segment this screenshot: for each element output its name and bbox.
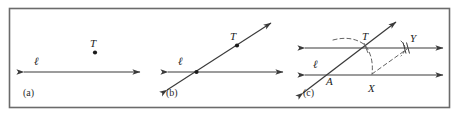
- panel-b-line-label: ℓ: [178, 56, 183, 67]
- figure-border: [10, 9, 450, 108]
- geometry-figure: ℓ T (a) ℓ T (b) ℓ T A X Y (c): [0, 0, 459, 117]
- panel-c-point-Y-label: Y: [410, 33, 416, 44]
- panel-c-point-A-label: A: [326, 76, 333, 87]
- panel-c-point-X-label: X: [368, 83, 375, 94]
- panel-b-graphics: [167, 23, 283, 90]
- panel-c-point-T-label: T: [362, 31, 368, 42]
- panel-b-point-T: [235, 43, 239, 47]
- panel-b-intersection-dot: [194, 70, 198, 74]
- figure-canvas: [0, 0, 459, 117]
- panel-c-line-label: ℓ: [313, 59, 318, 70]
- panel-a-point-T: [93, 50, 97, 54]
- panel-b-caption: (b): [166, 88, 178, 98]
- panel-c-chord-X-to-Y: [372, 49, 407, 74]
- panel-c-arc-at-A: [333, 38, 372, 74]
- panel-b-point-T-label: T: [230, 31, 236, 42]
- panel-c-caption: (c): [303, 88, 314, 98]
- panel-a-line-label: ℓ: [34, 56, 39, 67]
- panel-a-caption: (a): [23, 88, 34, 98]
- panel-a-point-T-label: T: [90, 38, 96, 49]
- panel-a-graphics: [24, 50, 140, 72]
